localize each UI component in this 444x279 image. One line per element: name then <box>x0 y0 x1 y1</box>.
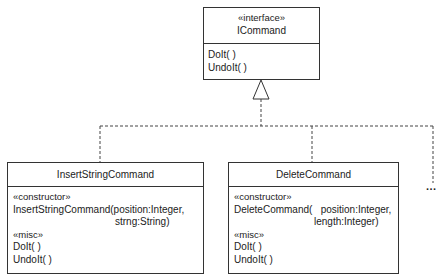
class-name: DeleteCommand <box>229 169 398 182</box>
class-deletecommand-box[interactable]: DeleteCommand «constructor» DeleteComman… <box>228 162 399 274</box>
interface-stereotype: «interface» <box>204 12 319 25</box>
constructor-signature-cont: strng:String) <box>13 216 203 229</box>
constructor-signature-cont: length:Integer) <box>234 216 398 229</box>
constructor-stereotype: «constructor» <box>234 191 398 204</box>
operation-doit: DoIt( ) <box>234 241 398 254</box>
operation-undoit: UndoIt( ) <box>208 62 319 75</box>
constructor-signature: DeleteCommand( position:Integer, <box>234 204 398 217</box>
more-classes-indicator: ... <box>426 180 437 192</box>
interface-icommand-box[interactable]: «interface» ICommand DoIt( ) UndoIt( ) <box>203 7 320 80</box>
misc-stereotype: «misc» <box>13 229 203 242</box>
operation-undoit: UndoIt( ) <box>13 254 203 267</box>
realization-arrowhead-icon <box>253 80 269 99</box>
constructor-stereotype: «constructor» <box>13 191 203 204</box>
operation-doit: DoIt( ) <box>13 241 203 254</box>
class-name: InsertStringCommand <box>8 169 203 182</box>
constructor-signature: InsertStringCommand(position:Integer, <box>13 204 203 217</box>
operation-doit: DoIt( ) <box>208 49 319 62</box>
operation-undoit: UndoIt( ) <box>234 254 398 267</box>
misc-stereotype: «misc» <box>234 229 398 242</box>
interface-name: ICommand <box>204 25 319 38</box>
class-insertstringcommand-box[interactable]: InsertStringCommand «constructor» Insert… <box>7 162 204 274</box>
